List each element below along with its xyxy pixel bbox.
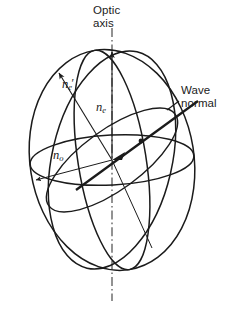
optic-axis-label: Optic axis (93, 4, 120, 30)
construction-line-lower-right (112, 160, 152, 248)
wave-normal-intersection-dot (139, 139, 144, 144)
refractive-index-no-label: no (53, 148, 64, 163)
no-subscript: o (59, 153, 63, 163)
refractive-index-ne-label: ne (96, 100, 106, 115)
wave-normal-label: Wave normal (181, 84, 217, 110)
indicatrix-drawing (0, 0, 236, 312)
n-o-arrow (36, 160, 112, 180)
wave-normal-arrowhead (112, 152, 125, 160)
ne-subscript: e (102, 105, 106, 115)
optical-indicatrix-figure: Optic axis Wave normal ne′ ne no (0, 0, 236, 312)
refractive-index-ne-prime-label: ne′ (62, 76, 74, 92)
ne-prime-mark: ′ (72, 76, 75, 90)
